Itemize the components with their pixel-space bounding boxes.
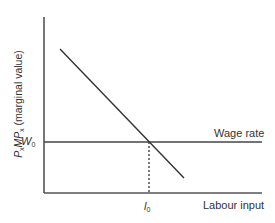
marginal-value-line — [60, 49, 184, 178]
diagram-canvas — [0, 0, 275, 223]
w0-tick-label: W0 — [21, 136, 35, 148]
w0-sub: 0 — [31, 141, 35, 148]
w0-base: W — [21, 135, 31, 147]
wage-rate-label: Wage rate — [214, 128, 264, 139]
y-label-p: P — [12, 151, 24, 158]
y-label-mp-sub: x — [18, 128, 25, 131]
l0-sub: 0 — [146, 206, 150, 213]
l0-tick-label: l0 — [144, 201, 150, 213]
y-label-rest: (marginal value) — [12, 50, 24, 128]
x-axis-label: Labour input — [203, 200, 264, 211]
